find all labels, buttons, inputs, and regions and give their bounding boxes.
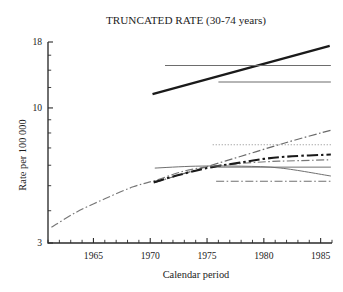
axis-tick-labels: 1965197019751980198531018 bbox=[32, 36, 330, 261]
axis-ticks bbox=[48, 42, 332, 243]
series-line-lower-trend-observed bbox=[154, 155, 331, 183]
chart-container: TRUNCATED RATE (30-74 years) Rate per 10… bbox=[0, 0, 343, 292]
axes bbox=[48, 42, 332, 243]
page-title: TRUNCATED RATE (30-74 years) bbox=[106, 14, 266, 27]
x-axis-label: Calendar period bbox=[163, 269, 230, 280]
y-tick-label: 18 bbox=[32, 36, 42, 47]
truncated-rate-chart: TRUNCATED RATE (30-74 years) Rate per 10… bbox=[0, 0, 343, 292]
x-tick-label: 1985 bbox=[311, 250, 330, 261]
x-tick-label: 1965 bbox=[84, 250, 103, 261]
data-series bbox=[51, 46, 330, 228]
x-tick-label: 1980 bbox=[254, 250, 273, 261]
chart-title-group: TRUNCATED RATE (30-74 years) bbox=[106, 14, 266, 27]
y-axis-label: Rate per 100 000 bbox=[17, 119, 28, 190]
y-axis-label-group: Rate per 100 000 bbox=[17, 119, 28, 190]
series-line-upper-trend-observed bbox=[153, 46, 330, 94]
y-tick-label: 10 bbox=[32, 102, 42, 113]
x-tick-label: 1975 bbox=[197, 250, 216, 261]
x-tick-label: 1970 bbox=[141, 250, 160, 261]
y-tick-label: 3 bbox=[37, 237, 42, 248]
series-line-lower-long-trend bbox=[51, 160, 330, 228]
x-axis-label-group: Calendar period bbox=[163, 269, 230, 280]
